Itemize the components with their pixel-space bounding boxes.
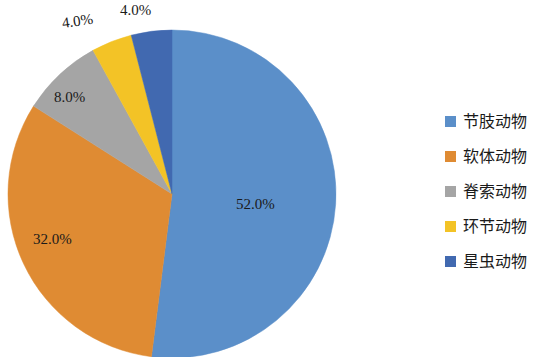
legend-item[interactable]: 星虫动物 xyxy=(445,244,542,279)
legend-item-label: 星虫动物 xyxy=(463,254,527,270)
legend-item[interactable]: 脊索动物 xyxy=(445,174,542,209)
pie-chart-figure: 52.0% 32.0% 8.0% 4.0% 4.0% 节肢动物软体动物脊索动物环… xyxy=(0,0,542,357)
pie-svg xyxy=(0,0,400,357)
slice-label-chordata: 8.0% xyxy=(54,89,85,106)
legend-item-label: 节肢动物 xyxy=(463,114,527,130)
legend-item-label: 软体动物 xyxy=(463,149,527,165)
legend-item-label: 环节动物 xyxy=(463,219,527,235)
slice-label-arthropoda: 52.0% xyxy=(236,196,275,213)
legend-item-label: 脊索动物 xyxy=(463,184,527,200)
legend-swatch-icon xyxy=(445,116,456,127)
legend-swatch-icon xyxy=(445,256,456,267)
legend-item[interactable]: 软体动物 xyxy=(445,139,542,174)
pie-plot-area: 52.0% 32.0% 8.0% 4.0% 4.0% xyxy=(0,0,400,357)
legend-item[interactable]: 节肢动物 xyxy=(445,104,542,139)
slice-label-mollusca: 32.0% xyxy=(33,231,72,248)
pie-slice[interactable] xyxy=(151,30,336,357)
legend-swatch-icon xyxy=(445,151,456,162)
pie-slices xyxy=(8,30,336,357)
chart-legend: 节肢动物软体动物脊索动物环节动物星虫动物 xyxy=(445,104,542,279)
legend-swatch-icon xyxy=(445,221,456,232)
legend-swatch-icon xyxy=(445,186,456,197)
slice-label-sipuncula: 4.0% xyxy=(120,2,151,19)
legend-item[interactable]: 环节动物 xyxy=(445,209,542,244)
